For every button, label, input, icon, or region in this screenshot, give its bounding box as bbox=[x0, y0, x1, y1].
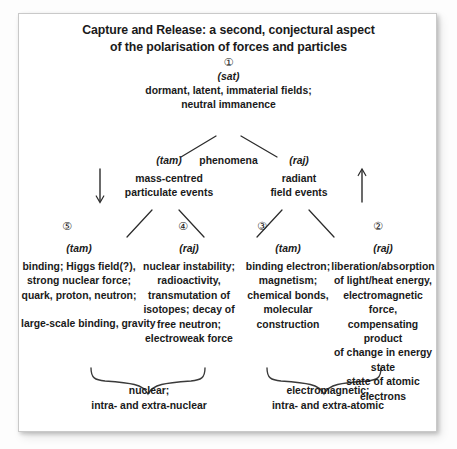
summary-em-line-2: intra- and extra-atomic bbox=[235, 399, 421, 414]
leaf-3-line-5: construction bbox=[241, 318, 335, 332]
node-guna-sat: (sat) bbox=[79, 70, 379, 84]
edge-raj-mid-to-leaf2 bbox=[309, 210, 334, 237]
summary-nuclear: nuclear; intra- and extra-nuclear bbox=[59, 384, 239, 413]
title-line-1: Capture and Release: a second, conjectur… bbox=[19, 22, 437, 39]
leaf-5-line-2: strong nuclear force; bbox=[21, 274, 137, 288]
leaf-2-line-4: compensating product bbox=[329, 318, 437, 347]
leaf-2-line-2: of light/heat energy, bbox=[329, 274, 437, 288]
summary-electromagnetic: electromagnetic; intra- and extra-atomic bbox=[235, 384, 421, 413]
diagram-card: Capture and Release: a second, conjectur… bbox=[18, 13, 437, 432]
leaf-4-guna: (raj) bbox=[137, 242, 241, 256]
root-line-1: dormant, latent, immaterial fields; bbox=[79, 84, 379, 98]
mid-right-line-1: radiant bbox=[235, 172, 363, 186]
edge-tam-mid-to-leaf5 bbox=[127, 210, 152, 237]
leaf-2-guna: (raj) bbox=[329, 242, 437, 256]
leaf-3-line-4: molecular bbox=[241, 303, 335, 317]
summary-nuclear-line-1: nuclear; bbox=[59, 384, 239, 399]
leaf-4-line-6: electroweak force bbox=[137, 332, 241, 346]
mid-right-guna: (raj) bbox=[235, 154, 363, 168]
leaf-marker-3: ③ bbox=[257, 221, 267, 233]
leaf-2-line-1: liberation/absorption bbox=[329, 260, 437, 274]
leaf-3-line-1: binding electron; bbox=[241, 260, 335, 274]
node-mid-raj: (raj) radiant field events bbox=[235, 154, 363, 199]
summary-em-line-1: electromagnetic; bbox=[235, 384, 421, 399]
leaf-column-3: (tam) binding electron; magnetism; chemi… bbox=[241, 242, 335, 332]
leaf-4-line-4: isotopes; decay of bbox=[137, 303, 241, 317]
leaf-3-guna: (tam) bbox=[241, 242, 335, 256]
node-marker-1: ① bbox=[79, 56, 379, 70]
leaf-5-guna: (tam) bbox=[21, 242, 137, 256]
summary-nuclear-line-2: intra- and extra-nuclear bbox=[59, 399, 239, 414]
leaf-column-5: (tam) binding; Higgs field(?), strong nu… bbox=[21, 242, 137, 332]
leaf-3-line-2: magnetism; bbox=[241, 274, 335, 288]
leaf-column-4: (raj) nuclear instability; radioactivity… bbox=[137, 242, 241, 346]
leaf-marker-4: ④ bbox=[178, 221, 188, 233]
root-line-2: neutral immanence bbox=[79, 98, 379, 112]
leaf-5-line-1: binding; Higgs field(?), bbox=[21, 260, 137, 274]
leaf-2-line-3: electromagnetic force, bbox=[329, 289, 437, 318]
leaf-3-line-3: chemical bonds, bbox=[241, 289, 335, 303]
node-root-sat: ① (sat) dormant, latent, immaterial fiel… bbox=[79, 56, 379, 111]
mid-left-line-1: mass-centred bbox=[105, 172, 233, 186]
page-title: Capture and Release: a second, conjectur… bbox=[19, 22, 437, 55]
leaf-marker-5: ⑤ bbox=[62, 221, 72, 233]
mid-right-line-2: field events bbox=[235, 186, 363, 200]
leaf-5-extra: large-scale binding, gravity bbox=[21, 317, 137, 331]
arrow-down-left bbox=[96, 169, 104, 203]
title-line-2: of the polarisation of forces and partic… bbox=[19, 39, 437, 56]
leaf-4-line-1: nuclear instability; bbox=[137, 260, 241, 274]
leaf-marker-2: ② bbox=[373, 221, 383, 233]
diagram-page: Capture and Release: a second, conjectur… bbox=[0, 0, 457, 449]
leaf-4-line-2: radioactivity, bbox=[137, 274, 241, 288]
leaf-5-line-3: quark, proton, neutron; bbox=[21, 289, 137, 303]
leaf-2-line-5: of change in energy state bbox=[329, 346, 437, 375]
leaf-column-2: (raj) liberation/absorption of light/hea… bbox=[329, 242, 437, 404]
mid-left-line-2: particulate events bbox=[105, 186, 233, 200]
node-mid-tam: (tam) mass-centred particulate events bbox=[105, 154, 233, 199]
leaf-4-line-3: transmutation of bbox=[137, 289, 241, 303]
leaf-4-line-5: free neutron; bbox=[137, 318, 241, 332]
mid-left-guna: (tam) bbox=[105, 154, 233, 168]
